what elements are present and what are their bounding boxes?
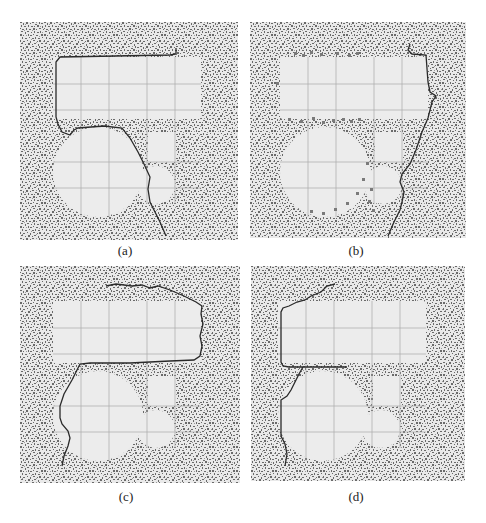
panel-a [20, 22, 238, 240]
panel-b-image [250, 22, 466, 238]
panel-c-image [20, 266, 240, 483]
panel-d-image [251, 266, 465, 481]
caption-c: (c) [106, 489, 146, 505]
panel-c [20, 266, 240, 483]
panel-d [251, 266, 465, 481]
panel-a-image [20, 22, 238, 240]
caption-a: (a) [105, 243, 145, 259]
caption-b: (b) [336, 243, 376, 259]
panel-b [250, 22, 466, 238]
caption-d: (d) [336, 489, 376, 505]
